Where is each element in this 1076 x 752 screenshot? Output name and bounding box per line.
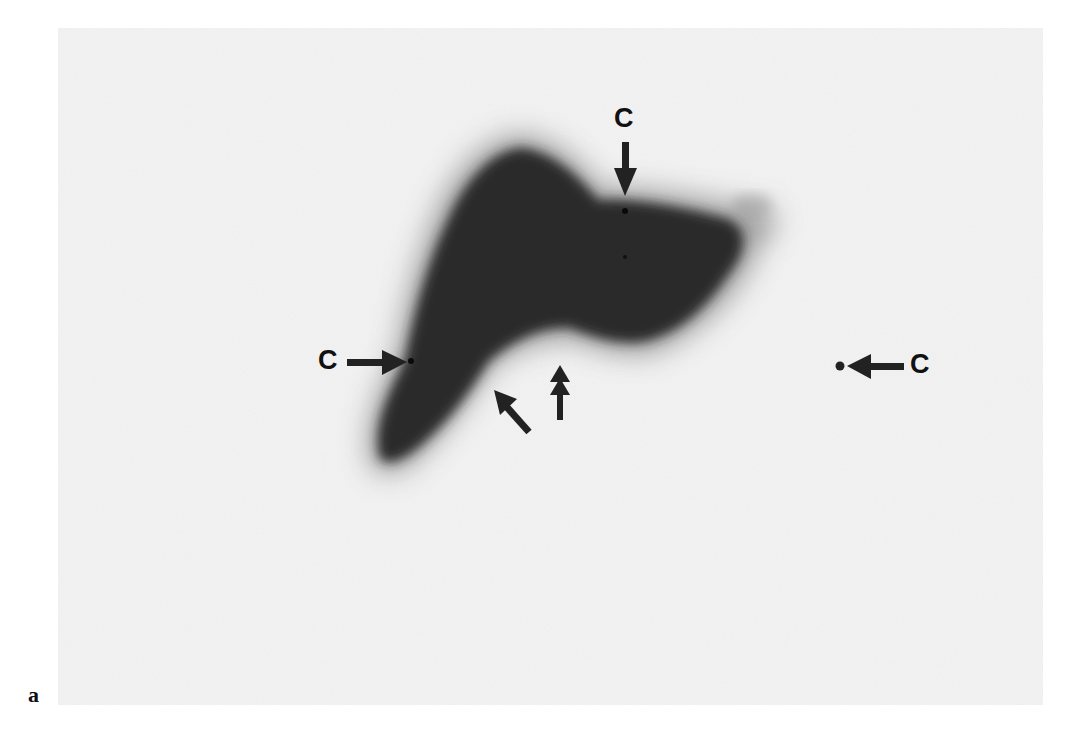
marker-dot-top-lower xyxy=(623,255,627,259)
organ-right-tip xyxy=(732,193,772,217)
marker-label-right: C xyxy=(910,351,930,378)
scintigraphy-figure: C C C a xyxy=(0,0,1076,752)
panel-label: a xyxy=(28,682,39,708)
marker-label-top: C xyxy=(614,105,634,132)
marker-label-left: C xyxy=(318,347,338,374)
marker-dot-right xyxy=(836,362,845,371)
marker-dot-left xyxy=(408,358,414,364)
marker-dot-top xyxy=(622,208,628,214)
